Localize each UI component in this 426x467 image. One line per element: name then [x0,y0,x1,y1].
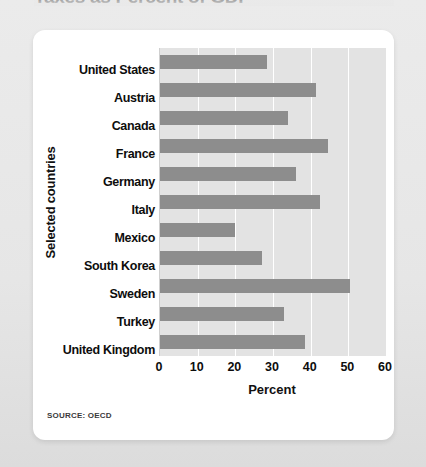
y-axis-tick-label: South Korea [47,259,155,273]
page-title-text: Taxes as Percent of GDP [34,0,251,6]
bar [160,167,296,181]
bar [160,335,305,349]
x-axis-tick-label: 10 [190,360,204,374]
y-axis-tick-label: France [47,147,155,161]
source-note: SOURCE: OECD [47,411,112,420]
gridline [386,48,387,356]
x-axis-tick-label: 50 [340,360,354,374]
bar [160,251,262,265]
y-axis-tick-label: Mexico [47,231,155,245]
bar [160,111,288,125]
plot-area [159,48,386,356]
x-axis-tick-label: 0 [156,360,163,374]
bar [160,223,235,237]
bar-chart: Selected countries United StatesAustriaC… [33,30,394,440]
page-title: Taxes as Percent of GDP [34,0,394,6]
page-background: Taxes as Percent of GDP Selected countri… [0,0,426,467]
bar [160,279,350,293]
y-axis-tick-label: Austria [47,91,155,105]
bar [160,55,267,69]
y-axis-tick-label: Turkey [47,315,155,329]
bar [160,83,316,97]
bar [160,307,284,321]
x-axis-tick-label: 20 [227,360,241,374]
y-axis-tick-labels: United StatesAustriaCanadaFranceGermanyI… [47,52,155,352]
gridline [348,48,349,356]
y-axis-tick-label: Germany [47,175,155,189]
y-axis-tick-label: Italy [47,203,155,217]
x-axis-tick-labels: 0102030405060 [159,360,385,380]
x-axis-tick-label: 40 [303,360,317,374]
x-axis-title: Percent [159,382,385,397]
bar [160,195,320,209]
x-axis-tick-label: 60 [378,360,392,374]
y-axis-tick-label: United Kingdom [47,343,155,357]
x-axis-tick-label: 30 [265,360,279,374]
y-axis-tick-label: Sweden [47,287,155,301]
y-axis-tick-label: United States [47,63,155,77]
chart-card: Selected countries United StatesAustriaC… [33,30,394,440]
bar [160,139,328,153]
y-axis-tick-label: Canada [47,119,155,133]
